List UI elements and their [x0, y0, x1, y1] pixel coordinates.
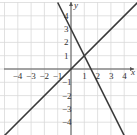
- x-tick-label: 3: [109, 71, 114, 81]
- y-tick-label: 4: [64, 11, 69, 21]
- y-tick-label: 2: [64, 37, 69, 47]
- x-tick-label: 4: [122, 71, 127, 81]
- x-tick-label: −2: [39, 71, 49, 81]
- y-tick-label: −2: [62, 91, 72, 101]
- x-axis-label: x: [130, 67, 135, 77]
- x-tick-label: −3: [26, 71, 36, 81]
- x-tick-label: −1: [53, 71, 63, 81]
- y-tick-label: −3: [62, 104, 72, 114]
- x-tick-label: 2: [96, 71, 101, 81]
- y-tick-label: 1: [64, 51, 69, 61]
- x-tick-label: −4: [13, 71, 23, 81]
- x-tick-label: 1: [82, 71, 87, 81]
- y-tick-label: −1: [62, 77, 72, 87]
- y-axis-label: y: [73, 0, 78, 10]
- coordinate-plane: −4−3−2−112344321−1−2−3−4 x y: [0, 0, 137, 135]
- y-tick-label: 3: [64, 24, 69, 34]
- y-tick-label: −4: [62, 117, 72, 127]
